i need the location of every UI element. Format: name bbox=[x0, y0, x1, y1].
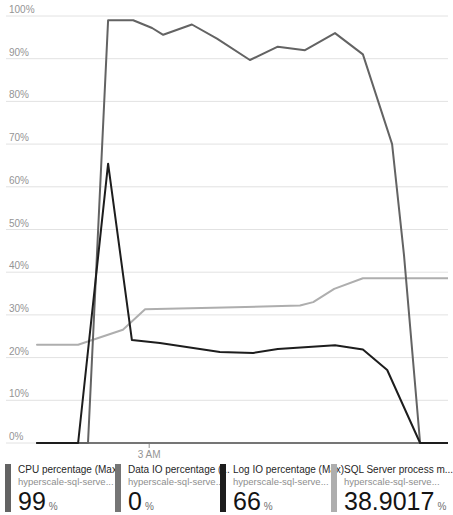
y-axis-tick-label: 20% bbox=[9, 346, 29, 357]
chart-legend: CPU percentage (Max) hyperscale-sql-serv… bbox=[0, 460, 448, 511]
y-axis-tick-label: 10% bbox=[9, 388, 29, 399]
legend-text-log-io: Log IO percentage (Max) hyperscale-sql-s… bbox=[233, 464, 331, 515]
metric-value-number: 38.9017 bbox=[344, 487, 434, 515]
legend-text-data-io: Data IO percentage (... hyperscale-sql-s… bbox=[128, 464, 220, 515]
metric-title: CPU percentage (Max) bbox=[18, 464, 115, 476]
metric-title: SQL Server process m... bbox=[344, 464, 453, 476]
y-axis-tick-label: 40% bbox=[9, 260, 29, 271]
legend-text-cpu: CPU percentage (Max) hyperscale-sql-serv… bbox=[18, 464, 115, 515]
cpu-color-bar-icon bbox=[5, 464, 11, 512]
metric-title: Log IO percentage (Max) bbox=[233, 464, 331, 476]
metric-title: Data IO percentage (... bbox=[128, 464, 220, 476]
legend-item-cpu[interactable]: CPU percentage (Max) hyperscale-sql-serv… bbox=[5, 464, 115, 515]
y-axis-tick-label: 100% bbox=[9, 4, 35, 15]
y-axis-tick-label: 60% bbox=[9, 175, 29, 186]
y-axis-tick-label: 50% bbox=[9, 218, 29, 229]
y-axis-tick-label: 80% bbox=[9, 89, 29, 100]
metric-value-unit: % bbox=[437, 501, 446, 512]
legend-item-data-io[interactable]: Data IO percentage (... hyperscale-sql-s… bbox=[115, 464, 220, 515]
series-line-cpu bbox=[37, 20, 448, 443]
metric-value: 99% bbox=[18, 488, 115, 515]
metric-value-number: 66 bbox=[233, 487, 261, 515]
metric-value-unit: % bbox=[49, 501, 58, 512]
y-axis-tick-label: 70% bbox=[9, 132, 29, 143]
log-io-color-bar-icon bbox=[220, 464, 226, 512]
series-line-sql-memory bbox=[37, 278, 448, 345]
legend-text-sql-memory: SQL Server process m... hyperscale-sql-s… bbox=[344, 464, 453, 515]
sql-memory-color-bar-icon bbox=[331, 464, 337, 512]
data-io-color-bar-icon bbox=[115, 464, 121, 512]
y-axis-tick-label: 30% bbox=[9, 303, 29, 314]
metric-value-number: 99 bbox=[18, 487, 46, 515]
metric-value-unit: % bbox=[145, 501, 154, 512]
metric-value-unit: % bbox=[264, 501, 273, 512]
resource-name: hyperscale-sql-serve... bbox=[344, 476, 453, 487]
resource-name: hyperscale-sql-serve... bbox=[18, 476, 115, 487]
x-axis-tick-label: 3 AM bbox=[138, 449, 161, 460]
metric-value: 0% bbox=[128, 488, 220, 515]
y-axis-tick-label: 90% bbox=[9, 47, 29, 58]
y-axis-tick-label: 0% bbox=[9, 431, 24, 442]
metric-value-number: 0 bbox=[128, 487, 142, 515]
resource-name: hyperscale-sql-serve... bbox=[128, 476, 220, 487]
metric-value: 66% bbox=[233, 488, 331, 515]
legend-item-log-io[interactable]: Log IO percentage (Max) hyperscale-sql-s… bbox=[220, 464, 331, 515]
resource-name: hyperscale-sql-serve... bbox=[233, 476, 331, 487]
legend-item-sql-memory[interactable]: SQL Server process m... hyperscale-sql-s… bbox=[331, 464, 453, 515]
metric-value: 38.9017% bbox=[344, 488, 453, 515]
line-chart: 100%90%80%70%60%50%40%30%20%10%0%3 AM bbox=[0, 0, 448, 460]
